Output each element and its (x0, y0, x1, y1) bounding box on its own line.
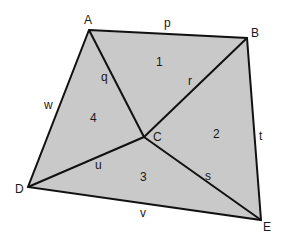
edge-label-r: r (188, 74, 192, 88)
edge-label-u: u (95, 158, 102, 172)
region-label-3: 3 (140, 170, 147, 184)
edge-label-w: w (43, 98, 53, 112)
edge-label-q: q (101, 70, 108, 84)
vertex-label-e: E (263, 220, 271, 234)
vertex-label-b: B (251, 26, 259, 40)
region-label-2: 2 (213, 127, 220, 141)
vertex-label-a: A (84, 13, 92, 27)
region-label-4: 4 (90, 111, 97, 125)
region-label-1: 1 (156, 55, 163, 69)
graph-diagram: A B C D E p t v w q r s u 1 2 3 4 (0, 0, 283, 239)
edge-label-t: t (259, 129, 263, 143)
vertex-label-c: C (153, 130, 162, 144)
diagram-svg: A B C D E p t v w q r s u 1 2 3 4 (0, 0, 283, 239)
edge-label-p: p (164, 16, 171, 30)
edge-label-v: v (140, 206, 146, 220)
edge-label-s: s (205, 169, 211, 183)
vertex-label-d: D (15, 182, 24, 196)
